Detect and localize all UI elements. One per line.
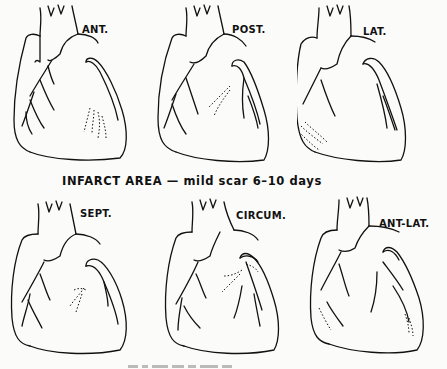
panel-label-septal: SEPT. <box>80 208 112 219</box>
heart-diagram-posterior <box>150 0 300 178</box>
heart-panel-posterior: POST. <box>150 0 300 178</box>
heart-panel-anterolateral: ANT-LAT. <box>297 190 447 368</box>
heart-panel-lateral: LAT. <box>297 0 447 178</box>
panel-label-lateral: LAT. <box>363 26 387 37</box>
heart-panel-septal: SEPT. <box>0 190 150 368</box>
heart-panel-circumferential: CIRCUM. <box>150 190 300 368</box>
heart-diagram-septal <box>0 190 150 368</box>
heart-panel-anterior: ANT. <box>0 0 150 178</box>
panel-label-circumferential: CIRCUM. <box>236 210 286 221</box>
truncated-footer-caption <box>128 362 248 369</box>
heart-diagram-anterolateral <box>297 190 447 368</box>
heart-diagram-anterior <box>0 0 150 178</box>
panel-label-anterolateral: ANT-LAT. <box>379 218 429 229</box>
panel-label-anterior: ANT. <box>82 24 108 35</box>
panel-label-posterior: POST. <box>232 24 266 35</box>
figure-caption: INFARCT AREA — mild scar 6–10 days <box>62 174 322 188</box>
